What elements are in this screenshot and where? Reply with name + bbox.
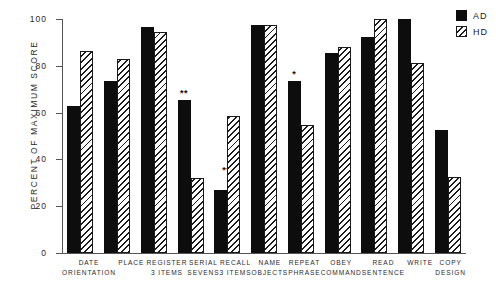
bar-hd	[374, 19, 387, 253]
x-axis-line	[62, 253, 466, 254]
x-axis-label-line: COPY	[435, 258, 466, 268]
bar-ad: *	[288, 81, 301, 253]
bar-hd	[154, 32, 167, 253]
bar-hd	[411, 63, 424, 253]
x-axis-label-line: SEVENS	[187, 268, 219, 278]
x-axis-label: OBEYCOMMAND	[321, 258, 362, 277]
bar-groups: *******	[62, 19, 466, 253]
legend-item-ad: AD	[456, 10, 488, 21]
x-axis-labels: DATEORIENTATIONPLACE REGISTER3 ITEMSSERI…	[62, 258, 466, 277]
bar-hd	[338, 47, 351, 253]
bar-group: *	[282, 19, 319, 253]
legend-swatch-ad-icon	[456, 10, 467, 21]
bar-ad	[251, 25, 264, 253]
y-tick-label: 100	[30, 14, 47, 24]
bar-group: **	[172, 19, 209, 253]
x-axis-label: REGISTER3 ITEMS	[146, 258, 187, 277]
y-tick: 0	[56, 253, 63, 254]
x-axis-label-line: REPEAT	[288, 258, 321, 268]
x-axis-label-line: PLACE	[116, 258, 146, 268]
x-axis-label: READSENTENCE	[362, 258, 405, 277]
bar-ad	[141, 27, 154, 253]
bar-group	[393, 19, 430, 253]
bar-ad	[104, 81, 117, 253]
y-tick-label: 0	[41, 248, 47, 258]
x-axis-label-line: 3 ITEMS	[146, 268, 187, 278]
bar-group	[99, 19, 136, 253]
bar-group	[319, 19, 356, 253]
x-axis-label-line: READ	[362, 258, 405, 268]
legend-label-hd: HD	[473, 27, 488, 37]
x-axis-label-line: DESIGN	[435, 268, 466, 278]
bar-group	[135, 19, 172, 253]
x-axis-label-line: RECALL	[219, 258, 251, 268]
x-axis-label: COPYDESIGN	[435, 258, 466, 277]
bar-ad: **	[67, 106, 80, 253]
bar-ad	[435, 130, 448, 253]
bar-ad	[361, 37, 374, 253]
bar-hd	[227, 116, 240, 253]
x-axis-label-line: WRITE	[405, 258, 435, 268]
x-axis-label-line: SERIAL	[187, 258, 219, 268]
legend-swatch-hd-icon	[456, 26, 467, 37]
y-tick-label: 20	[36, 201, 47, 211]
x-axis-label-line: ORIENTATION	[62, 268, 116, 278]
bar-ad: **	[214, 190, 227, 253]
x-axis-label: DATEORIENTATION	[62, 258, 116, 277]
x-axis-label: PLACE	[116, 258, 146, 277]
significance-marker: *	[292, 70, 296, 79]
x-axis-label-line: OBEY	[321, 258, 362, 268]
x-axis-label-line: PHRASE	[288, 268, 321, 278]
x-axis-label-line: COMMAND	[321, 268, 362, 278]
bar-group: **	[209, 19, 246, 253]
bar-hd	[80, 51, 93, 253]
x-axis-label-line	[405, 268, 435, 278]
legend: AD HD	[456, 10, 488, 37]
x-axis-label-line: SENTENCE	[362, 268, 405, 278]
y-axis-title: PERCENT OF MAXIMUM SCORE	[29, 25, 39, 225]
significance-marker: **	[180, 89, 188, 98]
x-axis-label-line: REGISTER	[146, 258, 187, 268]
y-tick-label: 60	[36, 108, 47, 118]
x-axis-label-line: OBJECTS	[251, 268, 288, 278]
x-axis-label: RECALL3 ITEMS	[219, 258, 251, 277]
x-axis-label-line: NAME	[251, 258, 288, 268]
x-axis-label-line	[116, 268, 146, 278]
bar-ad	[325, 53, 338, 253]
x-axis-label-line: DATE	[62, 258, 116, 268]
bar-group: **	[62, 19, 99, 253]
bar-ad: **	[178, 100, 191, 253]
bar-hd	[264, 25, 277, 253]
legend-item-hd: HD	[456, 26, 488, 37]
x-axis-label: SERIALSEVENS	[187, 258, 219, 277]
bar-group	[246, 19, 283, 253]
bar-hd	[117, 59, 130, 253]
x-axis-label: REPEATPHRASE	[288, 258, 321, 277]
y-tick-label: 80	[36, 61, 47, 71]
bar-group	[356, 19, 393, 253]
x-axis-label-line: 3 ITEMS	[219, 268, 251, 278]
x-axis-label: WRITE	[405, 258, 435, 277]
x-axis-label: NAMEOBJECTS	[251, 258, 288, 277]
bar-hd	[301, 125, 314, 253]
bar-group	[429, 19, 466, 253]
bar-hd	[448, 177, 461, 253]
bar-hd	[191, 178, 204, 253]
y-tick-label: 40	[36, 154, 47, 164]
bar-ad	[398, 19, 411, 253]
bar-chart: PERCENT OF MAXIMUM SCORE 020406080100 **…	[0, 0, 496, 293]
plot-area: 020406080100 *******	[62, 19, 466, 253]
legend-label-ad: AD	[473, 11, 488, 21]
